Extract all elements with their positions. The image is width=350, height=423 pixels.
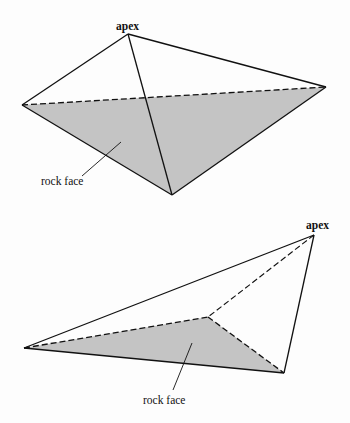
top-pyramid: apex rock face: [22, 20, 326, 195]
top-apex-label: apex: [116, 20, 139, 33]
bottom-pyramid: apex rock face: [24, 219, 329, 406]
bottom-edge-apex-middle-dashed: [208, 235, 314, 317]
diagram-canvas: apex rock face apex rock face: [0, 0, 350, 423]
bottom-apex-label: apex: [306, 219, 329, 232]
top-edge-apex-right: [128, 34, 326, 87]
top-edge-apex-left: [22, 34, 128, 105]
bottom-rock-face-label: rock face: [143, 394, 185, 406]
bottom-edge-apex-right: [284, 235, 314, 373]
top-rock-face-label: rock face: [41, 175, 83, 187]
rock-face-diagram: apex rock face apex rock face: [0, 0, 350, 423]
